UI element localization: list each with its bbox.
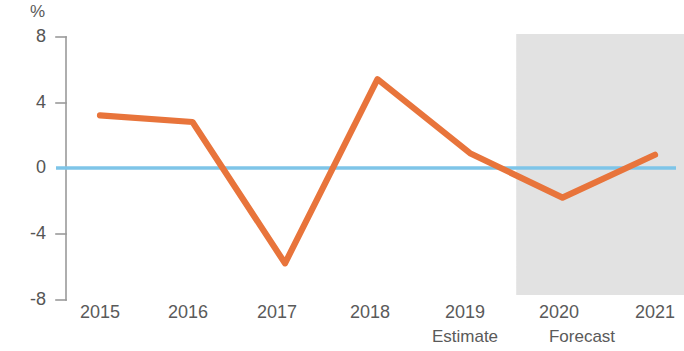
x-tick-label-2019: 2019 (425, 302, 505, 323)
y-tick-label-neg4: -4 (2, 223, 46, 244)
x-tick-label-2017: 2017 (237, 302, 317, 323)
annotation-forecast: Forecast (527, 327, 637, 347)
y-tick-label-0: 0 (2, 157, 46, 178)
y-tick-label-neg8: -8 (2, 289, 46, 310)
x-tick-label-2021: 2021 (615, 302, 684, 323)
forecast-shaded-band (516, 34, 684, 295)
x-tick-label-2016: 2016 (148, 302, 228, 323)
y-tick-label-8: 8 (2, 26, 46, 47)
x-tick-label-2015: 2015 (60, 302, 140, 323)
y-tick-label-4: 4 (2, 92, 46, 113)
chart-plot-area (0, 0, 684, 351)
x-tick-label-2020: 2020 (519, 302, 599, 323)
chart-container: % 8 4 0 -4 -8 2015 2016 2017 2018 2019 2… (0, 0, 684, 351)
annotation-estimate: Estimate (425, 327, 505, 347)
x-tick-label-2018: 2018 (330, 302, 410, 323)
y-axis-unit-label: % (30, 2, 45, 22)
